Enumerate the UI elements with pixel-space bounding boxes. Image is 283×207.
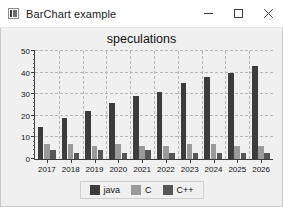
- x-tick-2022: [166, 159, 167, 163]
- bar-java-2023: [181, 83, 186, 159]
- x-tick-label-2022: 2022: [157, 165, 175, 174]
- plot-area: 01020304050 2017201820192020202120222023…: [34, 51, 273, 160]
- x-tick-2025: [237, 159, 238, 163]
- bar-c-2023: [187, 144, 192, 159]
- bar-group-2023: [178, 51, 202, 159]
- bar-c-2018: [68, 144, 73, 159]
- legend-label: C: [145, 185, 152, 195]
- bar-series-container: [35, 51, 273, 159]
- minimize-button[interactable]: [193, 0, 223, 27]
- bar-java-2018: [62, 118, 67, 159]
- bar-c-2021: [139, 146, 144, 159]
- x-tick-label-2021: 2021: [133, 165, 151, 174]
- legend-swatch-icon: [131, 185, 141, 195]
- x-tick-label-2020: 2020: [109, 165, 127, 174]
- x-tick-label-2023: 2023: [181, 165, 199, 174]
- bar-cpp-2021: [145, 150, 150, 159]
- y-tick-label-50: 50: [21, 47, 30, 56]
- bar-c-2019: [92, 146, 97, 159]
- x-tick-2018: [71, 159, 72, 163]
- bar-group-2022: [154, 51, 178, 159]
- bar-java-2019: [85, 111, 90, 159]
- maximize-icon: [233, 8, 244, 19]
- x-tick-label-2017: 2017: [38, 165, 56, 174]
- bar-c-2026: [258, 146, 263, 159]
- legend-swatch-icon: [89, 185, 99, 195]
- bar-c-2022: [163, 146, 168, 159]
- bar-group-2021: [130, 51, 154, 159]
- x-tick-label-2025: 2025: [228, 165, 246, 174]
- x-tick-2026: [261, 159, 262, 163]
- bar-cpp-2022: [169, 153, 174, 159]
- x-tick-label-2019: 2019: [86, 165, 104, 174]
- bar-java-2026: [252, 66, 257, 159]
- x-tick-label-2024: 2024: [205, 165, 223, 174]
- bar-group-2026: [249, 51, 273, 159]
- x-tick-2023: [190, 159, 191, 163]
- legend-item-cpp[interactable]: C++: [163, 185, 194, 195]
- bar-group-2017: [35, 51, 59, 159]
- bar-c-2025: [234, 146, 239, 159]
- chart-title: speculations: [1, 32, 282, 46]
- legend-swatch-icon: [163, 185, 173, 195]
- bar-java-2022: [157, 92, 162, 159]
- bar-c-2024: [211, 144, 216, 159]
- bar-cpp-2025: [241, 153, 246, 159]
- bar-cpp-2023: [193, 153, 198, 159]
- minimize-icon: [203, 8, 214, 19]
- bar-group-2018: [59, 51, 83, 159]
- y-tick-label-20: 20: [21, 111, 30, 120]
- chart-panel: speculations 01020304050 201720182019202…: [0, 28, 283, 207]
- x-tick-2020: [118, 159, 119, 163]
- bar-group-2025: [225, 51, 249, 159]
- bar-cpp-2020: [122, 153, 127, 159]
- window-title: BarChart example: [26, 8, 116, 20]
- y-tick-label-30: 30: [21, 90, 30, 99]
- legend-label: java: [103, 185, 120, 195]
- barchart-app-icon: [8, 8, 19, 19]
- legend-item-c[interactable]: C: [131, 185, 152, 195]
- y-tick-label-0: 0: [26, 155, 30, 164]
- legend-item-java[interactable]: java: [89, 185, 120, 195]
- bar-java-2017: [38, 127, 43, 159]
- close-button[interactable]: [253, 0, 283, 27]
- close-icon: [263, 8, 274, 19]
- bar-java-2025: [228, 73, 233, 159]
- bar-cpp-2018: [74, 153, 79, 159]
- bar-java-2021: [133, 96, 138, 159]
- window-controls: [193, 0, 283, 27]
- bar-cpp-2024: [217, 153, 222, 159]
- bar-cpp-2026: [264, 153, 269, 159]
- barchart-window: BarChart example speculations: [0, 0, 283, 207]
- x-tick-2021: [142, 159, 143, 163]
- x-tick-2019: [95, 159, 96, 163]
- x-tick-label-2026: 2026: [252, 165, 270, 174]
- bar-java-2024: [204, 77, 209, 159]
- bar-cpp-2017: [50, 150, 55, 159]
- x-tick-label-2018: 2018: [62, 165, 80, 174]
- bar-c-2017: [44, 144, 49, 159]
- x-tick-2017: [47, 159, 48, 163]
- bar-group-2024: [202, 51, 226, 159]
- window-titlebar[interactable]: BarChart example: [0, 0, 283, 28]
- bar-cpp-2019: [98, 150, 103, 159]
- chart-legend: javaCC++: [79, 181, 203, 199]
- maximize-button[interactable]: [223, 0, 253, 27]
- bar-group-2020: [106, 51, 130, 159]
- bar-group-2019: [83, 51, 107, 159]
- y-tick-label-40: 40: [21, 68, 30, 77]
- legend-label: C++: [177, 185, 194, 195]
- x-tick-2024: [214, 159, 215, 163]
- y-tick-label-10: 10: [21, 133, 30, 142]
- bar-c-2020: [115, 144, 120, 159]
- bar-java-2020: [109, 103, 114, 159]
